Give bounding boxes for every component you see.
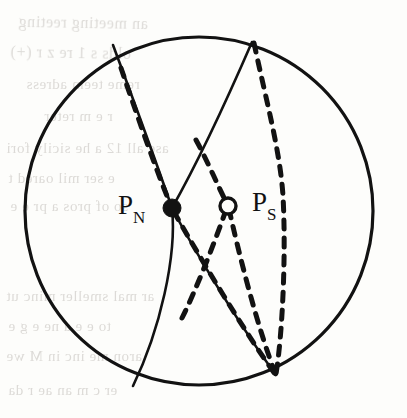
label-p-s: PS xyxy=(252,189,277,220)
curve-dashed-overlay-pn-upper xyxy=(121,68,171,206)
curve-dashed-arc-upper-left-to-ps xyxy=(196,140,228,206)
label-p-n-subscript: N xyxy=(133,208,145,227)
figure-container: an meeting reetingolds s 1 re z r (+)rem… xyxy=(0,0,407,418)
sphere-great-circle-diagram xyxy=(0,0,407,418)
curve-dashed-overlay-pn-lower xyxy=(174,212,275,374)
sphere-outline-circle xyxy=(25,37,373,385)
label-p-s-subscript: S xyxy=(267,205,276,224)
label-p-n-base: P xyxy=(118,190,133,220)
curve-dashed-arc-ps-to-rim xyxy=(229,209,276,375)
label-p-n: PN xyxy=(118,192,145,223)
label-p-s-base: P xyxy=(252,187,267,217)
pn-pole-marker-filled-dot xyxy=(163,199,181,217)
ps-pole-marker-open-circle xyxy=(220,198,236,214)
